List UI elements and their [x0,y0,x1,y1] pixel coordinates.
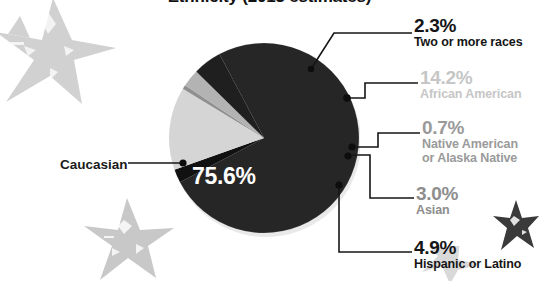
callout-label: Asian [416,203,458,217]
callout-label-line2: or Alaska Native [422,151,518,165]
callout-label: African American [420,87,521,101]
pie-center-value: 75.6% [192,163,256,190]
callout-hispanic: 4.9% Hispanic or Latino [414,238,521,271]
callout-percent: 2.3% [414,16,523,35]
callout-percent: 4.9% [414,238,521,257]
callout-label: Native American [422,137,518,151]
callout-label: Two or more races [414,35,523,49]
label-caucasian: Caucasian [60,157,128,172]
callout-african-american: 14.2% African American [420,68,521,101]
callout-two-or-more-races: 2.3% Two or more races [414,16,523,49]
callout-percent: 3.0% [416,184,458,203]
star-decoration-top-left [0,0,120,106]
ethnicity-pie-chart-figure: Ethnicity (2013 estimates) 75.6% [0,0,539,281]
callout-native-american: 0.7% Native American or Alaska Native [422,118,518,165]
callout-label: Hispanic or Latino [414,257,521,271]
callout-percent: 0.7% [422,118,518,137]
page-title: Ethnicity (2013 estimates) [0,0,539,7]
callout-percent: 14.2% [420,68,521,87]
star-decoration-bottom-left [80,196,176,281]
leader-line-native-american [352,133,420,147]
pie-chart [168,42,360,238]
callout-asian: 3.0% Asian [416,184,458,217]
